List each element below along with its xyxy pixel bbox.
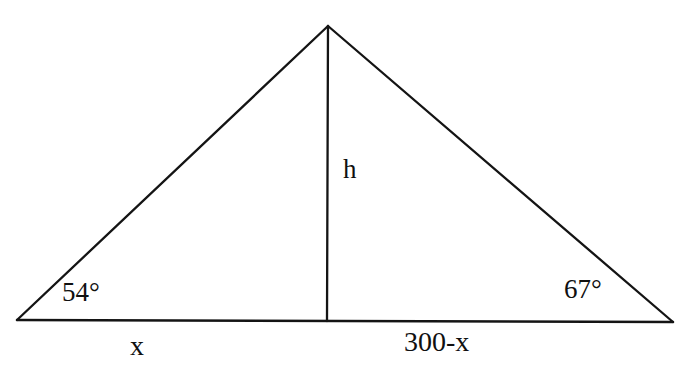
side-label-left: x xyxy=(130,332,144,360)
triangle-left-side xyxy=(17,26,328,320)
altitude-line xyxy=(327,26,328,321)
triangle-drawing xyxy=(0,0,684,375)
height-label: h xyxy=(343,156,357,183)
triangle-base-line xyxy=(17,320,673,322)
angle-label-left: 54° xyxy=(62,279,100,306)
triangle-right-side xyxy=(328,26,673,322)
angle-label-right: 67° xyxy=(564,276,602,303)
side-label-right: 300-x xyxy=(404,328,469,356)
triangle-diagram: 54° 67° h x 300-x xyxy=(0,0,684,375)
